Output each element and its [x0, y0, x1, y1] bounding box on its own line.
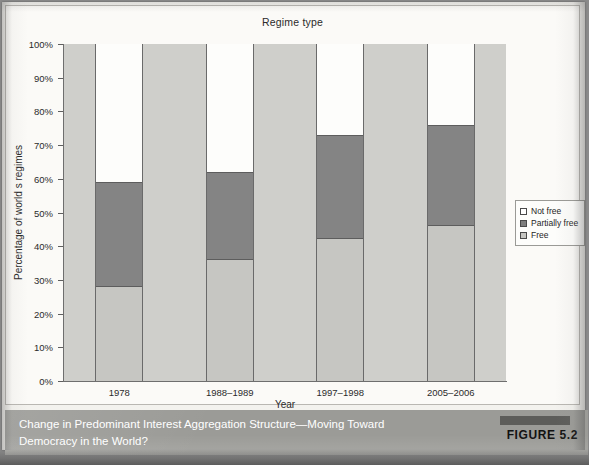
- y-axis-tick: [58, 246, 63, 247]
- y-axis-tick: [58, 381, 63, 382]
- x-axis-tick-label: 1978: [109, 387, 130, 398]
- plot-area: [64, 44, 506, 381]
- legend-item: Not free: [520, 205, 578, 217]
- figure-caption-text: Change in Predominant Interest Aggregati…: [19, 416, 439, 450]
- x-axis-tick-label: 1997–1998: [316, 387, 364, 398]
- y-axis-tick: [58, 111, 63, 112]
- bar-segment-partially-free: [207, 172, 253, 260]
- legend-item-label: Partially free: [531, 217, 578, 229]
- y-axis-tick-label: 100%: [29, 39, 53, 50]
- bar-segment-not-free: [317, 44, 363, 135]
- y-axis-tick-label: 20%: [34, 308, 53, 319]
- stacked-bar: [316, 44, 364, 381]
- x-axis-tick-label: 1988–1989: [206, 387, 254, 398]
- y-axis-tick: [58, 280, 63, 281]
- legend-item-label: Free: [531, 229, 548, 241]
- y-axis-tick-label: 90%: [34, 72, 53, 83]
- stacked-bar: [427, 44, 475, 381]
- y-axis-tick-label: 80%: [34, 106, 53, 117]
- bar-segment-free: [428, 226, 474, 381]
- figure-caption-band: Change in Predominant Interest Aggregati…: [5, 410, 588, 455]
- legend-swatch-icon: [520, 232, 527, 239]
- y-axis-tick-label: 30%: [34, 274, 53, 285]
- y-axis-tick: [58, 44, 63, 45]
- legend-swatch-icon: [520, 220, 527, 227]
- chart-legend: Not freePartially freeFree: [515, 200, 585, 246]
- legend-item: Partially free: [520, 217, 578, 229]
- stacked-bar: [95, 44, 143, 381]
- chart-title: Regime type: [6, 16, 579, 28]
- stacked-bar: [206, 44, 254, 381]
- y-axis-tick-label: 60%: [34, 173, 53, 184]
- y-axis-tick: [58, 347, 63, 348]
- y-axis-tick: [58, 179, 63, 180]
- x-axis-tick-label: 2005–2006: [427, 387, 475, 398]
- figure-number-badge: FIGURE 5.2: [490, 416, 578, 442]
- bar-segment-free: [207, 260, 253, 381]
- chart-frame: Regime type Percentage of world s regime…: [5, 5, 580, 405]
- legend-item: Free: [520, 229, 578, 241]
- y-axis-tick-label: 50%: [34, 207, 53, 218]
- y-axis-tick: [58, 314, 63, 315]
- y-axis-tick-label: 40%: [34, 241, 53, 252]
- y-axis-tick-label: 0%: [39, 376, 53, 387]
- y-axis-title: Percentage of world s regimes: [12, 44, 26, 381]
- bar-segment-not-free: [428, 44, 474, 125]
- y-axis-tick: [58, 213, 63, 214]
- bar-segment-partially-free: [428, 125, 474, 226]
- page-paper: Regime type Percentage of world s regime…: [2, 2, 585, 450]
- y-axis-title-text: Percentage of world s regimes: [14, 145, 25, 280]
- bar-segment-free: [96, 287, 142, 381]
- y-axis-tick: [58, 78, 63, 79]
- x-axis-line: [63, 381, 507, 382]
- legend-swatch-icon: [520, 208, 527, 215]
- figure-badge-bar: [500, 416, 570, 425]
- bar-segment-not-free: [96, 44, 142, 182]
- figure-number-label: FIGURE 5.2: [490, 428, 578, 442]
- bar-segment-partially-free: [317, 135, 363, 239]
- y-axis-tick-label: 70%: [34, 140, 53, 151]
- y-axis-tick: [58, 145, 63, 146]
- scanned-textbook-figure-page: Regime type Percentage of world s regime…: [0, 0, 589, 465]
- bar-segment-not-free: [207, 44, 253, 172]
- legend-item-label: Not free: [531, 205, 561, 217]
- x-axis-title: Year: [64, 399, 506, 410]
- y-axis-tick-label: 10%: [34, 342, 53, 353]
- bar-segment-partially-free: [96, 182, 142, 286]
- bar-segment-free: [317, 239, 363, 381]
